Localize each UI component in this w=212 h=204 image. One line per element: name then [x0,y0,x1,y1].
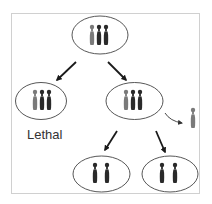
chromosome-dark-icon [173,163,177,183]
expelled-chromosome-icon [191,108,195,128]
cell-right-child [106,83,163,120]
chromosome-dark-icon [160,163,164,183]
chromosome-gray-icon [33,90,37,110]
chromosome-dark-icon [105,163,109,183]
chromosome-gray-icon [124,90,128,110]
arrow-to-bottom-right [156,131,165,152]
arrow-chromosome-loss [165,113,182,123]
lethal-label: Lethal [27,127,62,142]
cell-bottom-right [142,156,198,192]
chromosome-dark-icon [131,90,135,110]
chromosome-dark-icon [104,25,108,45]
chromosome-dark-icon [93,163,97,183]
chromosome-diagram [0,0,212,204]
arrow-to-left-child [57,62,76,80]
chromosome-dark-icon [47,90,51,110]
chromosome-gray-icon [90,25,94,45]
cell-parent [72,16,128,54]
arrow-to-bottom-left [105,131,117,150]
cell-left-child [16,83,67,120]
arrow-to-right-child [108,62,126,80]
chromosome-dark-icon [97,25,101,45]
cell-bottom-left [73,156,130,192]
chromosome-dark-icon [40,90,44,110]
chromosome-dark-icon [138,90,142,110]
